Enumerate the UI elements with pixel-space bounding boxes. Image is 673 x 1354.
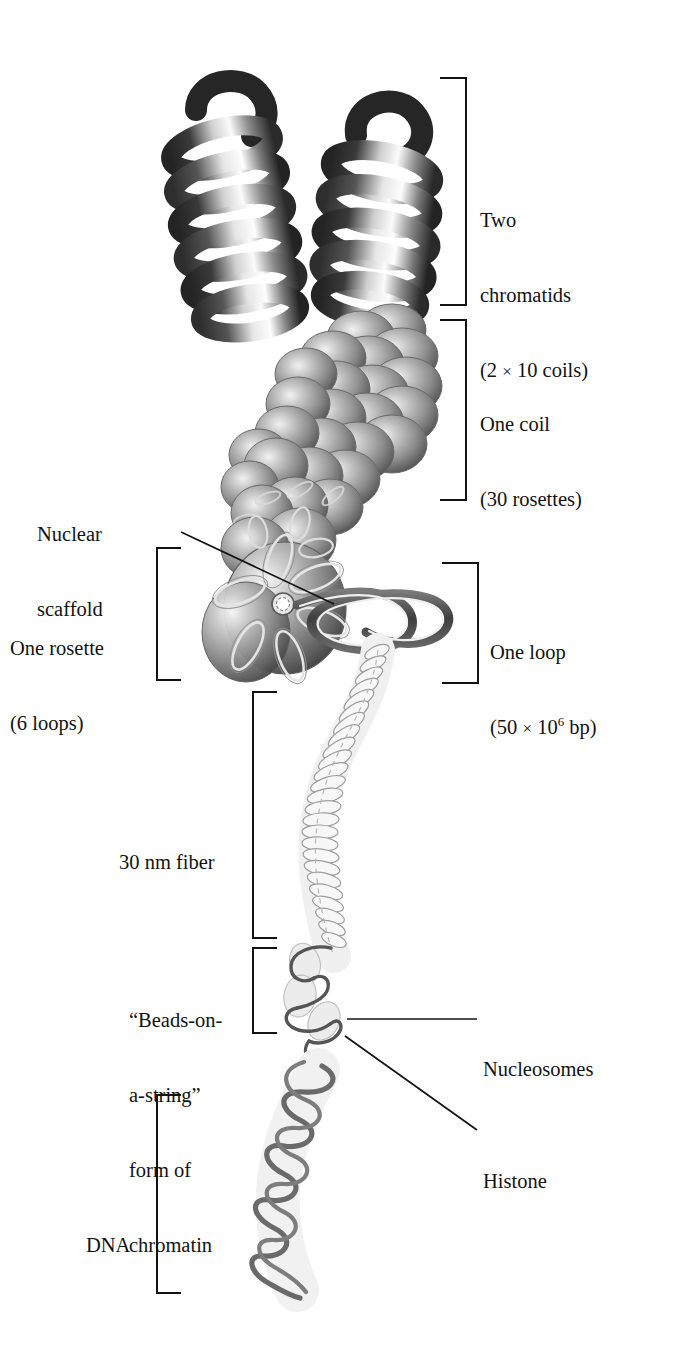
- chromatid-right: [317, 102, 437, 325]
- nucleosome-beads: [281, 940, 347, 1046]
- one-loop-illustration: [297, 592, 449, 650]
- dna-illustration: [252, 1062, 333, 1298]
- label-histone-line1: Histone: [483, 1169, 547, 1194]
- one-coil-bracket: [440, 320, 466, 500]
- one-rosette-bracket: [157, 548, 181, 680]
- label-beads-line1: “Beads-on-: [129, 1008, 222, 1033]
- label-one-coil: One coil (30 rosettes): [480, 362, 582, 562]
- label-one-loop-mid: 10: [532, 716, 558, 738]
- rosette-loops-outline: [208, 528, 354, 688]
- label-one-coil-line1: One coil: [480, 412, 582, 437]
- rosette-loops: [212, 532, 350, 684]
- one-rosette-illustration: [202, 505, 354, 688]
- label-one-loop-open: (50: [490, 716, 522, 738]
- thirty-nm-fiber-illustration: [302, 641, 392, 956]
- leader-line-group: [181, 532, 477, 1130]
- label-one-loop: One loop (50 × 106 bp): [490, 590, 597, 791]
- label-thirty-nm-fiber-line1: 30 nm fiber: [119, 850, 215, 875]
- rosette-sphere: [224, 542, 346, 674]
- label-two-chromatids-line1: Two: [480, 208, 588, 233]
- histone-leader: [345, 1036, 477, 1130]
- label-one-loop-line2: (50 × 106 bp): [490, 715, 597, 741]
- label-one-rosette-line1: One rosette: [10, 636, 104, 661]
- dna-strand-b: [259, 1062, 320, 1292]
- dna-strand-a: [252, 1066, 333, 1298]
- fiber-nucleosome-discs: [302, 641, 392, 950]
- label-one-rosette: One rosette (6 loops): [10, 586, 104, 786]
- label-one-loop-rest: bp): [564, 716, 596, 738]
- one-loop-bracket: [442, 563, 478, 683]
- nuclear-scaffold-leader: [181, 532, 334, 604]
- beads-on-a-string-illustration: [281, 940, 347, 1066]
- label-dna: DNA: [86, 1183, 130, 1308]
- multiplication-sign-icon: ×: [522, 719, 532, 738]
- label-beads-line2: a-string”: [129, 1083, 222, 1108]
- label-nucleosomes: Nucleosomes: [483, 1007, 593, 1132]
- two-chromatids-illustration: [167, 81, 437, 339]
- label-beads-line4: chromatin: [129, 1233, 222, 1258]
- label-thirty-nm-fiber: 30 nm fiber: [119, 800, 215, 925]
- thirty-nm-fiber-bracket: [253, 692, 277, 938]
- label-nucleosomes-line1: Nucleosomes: [483, 1057, 593, 1082]
- label-one-loop-line1: One loop: [490, 640, 597, 665]
- chromatid-left: [167, 81, 302, 339]
- one-coil-illustration: [221, 304, 442, 541]
- label-beads-line3: form of: [129, 1158, 222, 1183]
- label-nuclear-scaffold-line1: Nuclear: [37, 522, 103, 547]
- chromatin-packing-figure: Two chromatids (2 × 10 coils) One coil (…: [0, 0, 673, 1354]
- label-one-coil-line2: (30 rosettes): [480, 487, 582, 512]
- label-histone: Histone: [483, 1119, 547, 1244]
- nuclear-scaffold-ring: [272, 593, 294, 615]
- beads-on-a-string-bracket: [253, 948, 277, 1033]
- linker-string: [286, 947, 341, 1043]
- label-one-rosette-line2: (6 loops): [10, 711, 104, 736]
- label-dna-line1: DNA: [86, 1233, 130, 1258]
- label-beads-on-a-string: “Beads-on- a-string” form of chromatin: [129, 958, 222, 1308]
- two-chromatids-bracket: [440, 78, 466, 305]
- label-two-chromatids-line2: chromatids: [480, 283, 588, 308]
